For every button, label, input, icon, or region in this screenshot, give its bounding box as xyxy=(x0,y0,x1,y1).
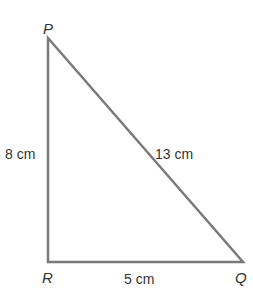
side-label-pr: 8 cm xyxy=(5,146,35,162)
triangle-diagram: P R Q 8 cm 13 cm 5 cm xyxy=(0,0,253,306)
triangle-pqr xyxy=(48,38,243,262)
vertex-label-q: Q xyxy=(235,269,247,286)
vertex-label-p: P xyxy=(43,20,53,37)
side-label-pq: 13 cm xyxy=(155,146,193,162)
vertex-label-r: R xyxy=(42,269,53,286)
side-label-rq: 5 cm xyxy=(124,271,154,287)
